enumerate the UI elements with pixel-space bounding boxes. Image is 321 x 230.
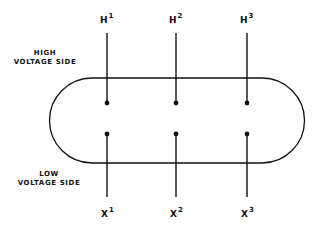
terminal-h3: H3 [240, 12, 253, 25]
terminal-x3: X3 [241, 206, 254, 219]
terminal-h1: H1 [100, 12, 113, 25]
low-voltage-terminal-dots [105, 132, 250, 137]
terminal-x1: X1 [101, 206, 114, 219]
high-voltage-side-label: HIGH VOLTAGE SIDE [12, 49, 78, 67]
transformer-terminal-diagram: HIGH VOLTAGE SIDE LOW VOLTAGE SIDE H1 H2… [0, 0, 321, 230]
transformer-tank-outline [50, 78, 305, 163]
diagram-graphics [0, 0, 321, 230]
high-voltage-bushings [107, 33, 247, 103]
terminal-h2: H2 [169, 12, 182, 25]
terminal-x2: X2 [170, 206, 183, 219]
high-voltage-terminal-dots [105, 101, 250, 106]
low-voltage-bushings [107, 134, 247, 197]
low-voltage-side-label: LOW VOLTAGE SIDE [16, 170, 82, 188]
